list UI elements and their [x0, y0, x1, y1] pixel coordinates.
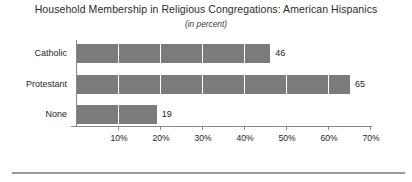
bar-catholic — [77, 44, 270, 63]
gridline-70 — [370, 40, 371, 125]
gridline-30 — [202, 40, 203, 125]
x-tick-label: 60% — [309, 133, 349, 144]
footer-rule — [12, 172, 405, 174]
x-tick-label: 40% — [225, 133, 265, 144]
x-tick-label: 50% — [267, 133, 307, 144]
category-label-none: None — [0, 108, 72, 120]
category-label-text: Catholic — [34, 47, 67, 59]
bar-none — [77, 105, 157, 124]
value-label-catholic: 46 — [275, 47, 285, 59]
category-label-catholic: Catholic — [0, 47, 72, 59]
chart-title: Household Membership in Religious Congre… — [0, 3, 412, 16]
x-tick-label: 70% — [351, 133, 391, 144]
x-tick-mark — [370, 126, 371, 130]
x-tick-mark — [286, 126, 287, 130]
chart-subtitle: (in percent) — [0, 19, 412, 30]
x-tick-label: 20% — [141, 133, 181, 144]
category-label-protestant: Protestant — [0, 78, 72, 90]
gridline-50 — [286, 40, 287, 125]
x-tick-label: 10% — [99, 133, 139, 144]
x-axis-line — [71, 126, 372, 127]
x-tick-mark — [244, 126, 245, 130]
plot-area — [77, 40, 371, 128]
value-label-none: 19 — [162, 108, 172, 120]
x-tick-label: 30% — [183, 133, 223, 144]
value-label-protestant: 65 — [355, 78, 365, 90]
x-tick-mark — [328, 126, 329, 130]
gridline-10 — [118, 40, 119, 125]
category-label-text: None — [45, 108, 67, 120]
x-tick-mark — [118, 126, 119, 130]
x-tick-mark — [202, 126, 203, 130]
x-tick-mark — [160, 126, 161, 130]
gridline-40 — [244, 40, 245, 125]
y-axis-line — [76, 40, 77, 126]
gridline-60 — [328, 40, 329, 125]
category-label-text: Protestant — [26, 78, 67, 90]
bar-chart-figure: Household Membership in Religious Congre… — [0, 0, 412, 182]
